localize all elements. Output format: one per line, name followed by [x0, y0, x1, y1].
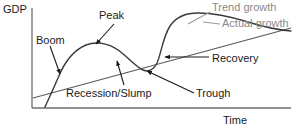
legend-label-trend-growth: Trend growth [212, 1, 276, 13]
annotation-boom: Boom [36, 34, 65, 46]
legend-label-actual-growth: Actual growth [222, 17, 289, 29]
actual-growth-leader-line [203, 22, 220, 24]
annotation-recovery: Recovery [212, 52, 258, 64]
annotation-recession-slump: Recession/Slump [66, 87, 152, 99]
annotation-peak: Peak [99, 9, 124, 21]
x-axis-label: Time [223, 114, 247, 126]
business-cycle-diagram: GDP Boom Peak Recession/Slump Trough Rec… [0, 0, 304, 131]
peak-leader-line [96, 24, 114, 44]
y-axis-label: GDP [3, 3, 27, 15]
annotation-trough: Trough [196, 87, 230, 99]
trough-leader-line [147, 71, 194, 93]
boom-leader-line [50, 46, 60, 74]
